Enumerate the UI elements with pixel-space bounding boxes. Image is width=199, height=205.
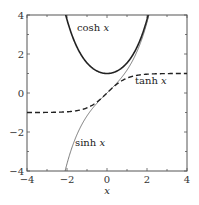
y-tick-label: 2 [18,49,24,60]
y-tick-label: 4 [18,10,24,21]
x-tick-label: 2 [144,174,150,185]
hyperbolic-functions-chart: −4−2024420−2−4 cosh xtanh xsinh x x [0,0,199,205]
cosh-label: cosh x [77,22,109,33]
curve-labels: cosh xtanh xsinh x [75,22,167,148]
x-axis-label: x [104,185,110,196]
tanh-label: tanh x [135,75,167,86]
x-tick-label: 0 [104,174,110,185]
tick-labels: −4−2024420−2−4 [9,10,190,186]
x-tick-label: 4 [184,174,190,185]
x-tick-label: −2 [60,174,75,185]
y-tick-label: 0 [18,88,24,99]
cosh-curve [27,0,187,74]
y-tick-label: −4 [9,166,24,177]
sinh-label: sinh x [75,137,105,148]
y-tick-label: −2 [9,127,24,138]
